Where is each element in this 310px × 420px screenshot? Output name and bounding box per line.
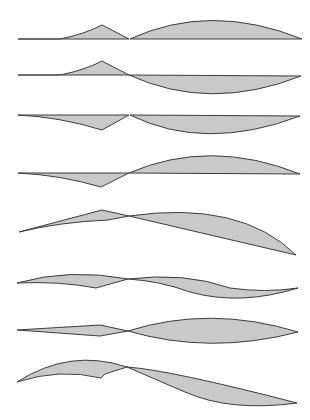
shape-3-right: [130, 115, 300, 134]
shape-1: [18, 21, 302, 40]
shape-1-right: [130, 21, 302, 40]
shape-7-left: [17, 325, 128, 336]
shape-5-left: [19, 210, 129, 232]
shape-8-right: [127, 367, 297, 406]
shape-4-left: [18, 173, 129, 187]
shape-8-left: [17, 360, 127, 382]
shape-7: [17, 318, 298, 343]
shape-7-right: [128, 318, 298, 343]
shape-8: [17, 360, 297, 406]
shape-2-right: [129, 75, 301, 94]
shape-3-left: [18, 115, 129, 130]
shape-5-right: [129, 212, 296, 255]
shape-2: [18, 61, 301, 94]
shape-diagram: [0, 0, 310, 420]
shape-5: [19, 210, 296, 255]
shape-6: [17, 274, 298, 298]
shape-4: [18, 156, 300, 187]
shape-6-left: [17, 274, 128, 288]
shape-4-right: [129, 156, 300, 174]
shape-6-right: [128, 277, 298, 298]
shape-1-left: [18, 25, 129, 39]
shape-2-left: [18, 61, 129, 75]
shape-3: [18, 115, 300, 134]
